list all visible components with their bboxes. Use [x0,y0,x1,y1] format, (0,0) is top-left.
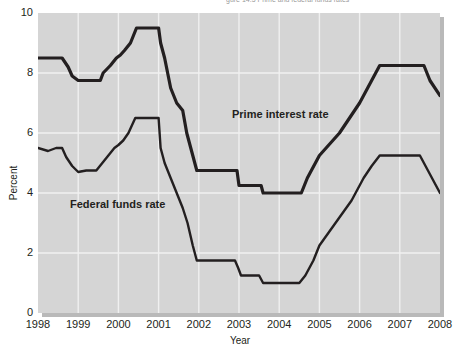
x-tick-label-2008: 2008 [417,318,460,330]
x-tick-label-2001: 2001 [136,318,182,330]
x-tick-label-2007: 2007 [377,318,423,330]
x-tick-label-2000: 2000 [95,318,141,330]
x-tick-label-2002: 2002 [176,318,222,330]
x-tick-label-2003: 2003 [216,318,262,330]
series-label-prime-interest-rate: Prime interest rate [232,108,329,120]
x-tick-label-1999: 1999 [55,318,101,330]
y-tick-label-2: 2 [3,247,33,258]
x-tick-label-2006: 2006 [337,318,383,330]
y-tick-label-0: 0 [3,307,33,318]
series-label-federal-funds-rate: Federal funds rate [70,198,165,210]
x-tick-label-1998: 1998 [15,318,61,330]
x-axis-title: Year [190,336,290,346]
y-axis-title: Percent [9,153,19,213]
figure-container: gure 14.5 Prime and federal funds rates … [0,0,460,359]
y-tick-label-6: 6 [3,127,33,138]
y-tick-label-10: 10 [3,7,33,18]
data-series-lines [38,13,440,313]
x-tick-label-2004: 2004 [256,318,302,330]
x-tick-label-2005: 2005 [296,318,342,330]
y-tick-label-8: 8 [3,67,33,78]
figure-caption-clipped: gure 14.5 Prime and federal funds rates [226,0,396,4]
plot-area [38,13,440,313]
